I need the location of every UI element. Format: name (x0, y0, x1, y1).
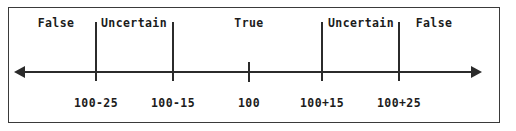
region-label-false-left: False (38, 17, 75, 30)
region-label-true: True (234, 17, 263, 30)
region-label-uncertain-left: Uncertain (101, 17, 167, 30)
tick-mark-4 (321, 22, 323, 81)
tick-mark-3 (248, 62, 250, 82)
figure-root: False Uncertain True Uncertain False 100… (0, 0, 516, 131)
region-label-false-right: False (416, 17, 453, 30)
tick-label-4: 100+15 (300, 97, 344, 110)
tick-label-5: 100+25 (377, 97, 421, 110)
tick-label-3: 100 (238, 97, 260, 110)
left-arrowhead-icon (14, 66, 25, 78)
tick-mark-2 (172, 22, 174, 81)
region-label-uncertain-right: Uncertain (328, 17, 394, 30)
tick-mark-1 (95, 22, 97, 81)
tick-label-1: 100-25 (74, 97, 118, 110)
tick-label-2: 100-15 (151, 97, 195, 110)
right-arrowhead-icon (471, 66, 482, 78)
tick-mark-5 (398, 22, 400, 81)
